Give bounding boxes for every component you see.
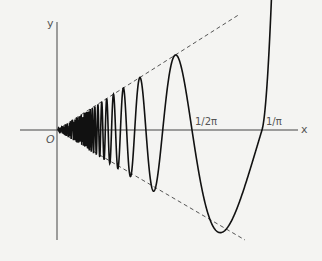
origin-label: O (46, 134, 55, 145)
tick-label-half-pi: 1/2π (195, 117, 217, 127)
plot-svg (0, 0, 322, 261)
function-curve (58, 0, 272, 233)
y-axis-label: y (47, 18, 54, 29)
diagram-canvas: y x O 1/2π 1/π (0, 0, 322, 261)
upper-envelope-line (57, 14, 240, 130)
x-axis-label: x (301, 124, 308, 135)
tick-label-pi: 1/π (266, 117, 282, 127)
